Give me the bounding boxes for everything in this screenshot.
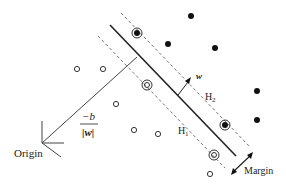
svg-text:1: 1: [185, 130, 189, 138]
support-vectors-positive: [132, 28, 230, 130]
hyperplane: [110, 25, 236, 156]
offset-fraction: −b |w|: [80, 110, 98, 138]
positive-points: [165, 13, 260, 123]
h1-label: H 1: [178, 125, 189, 138]
margin-label: Margin: [244, 165, 273, 176]
w-vector: [178, 77, 191, 95]
w-label: w: [196, 71, 203, 81]
offset-denominator: |w|: [82, 126, 94, 138]
svg-text:2: 2: [212, 96, 216, 104]
origin-label: Origin: [14, 147, 43, 159]
offset-numerator: −b: [82, 110, 95, 122]
negative-points: [74, 66, 212, 176]
svm-diagram: Origin −b |w| w H 2 H 1 Margin: [0, 0, 286, 187]
